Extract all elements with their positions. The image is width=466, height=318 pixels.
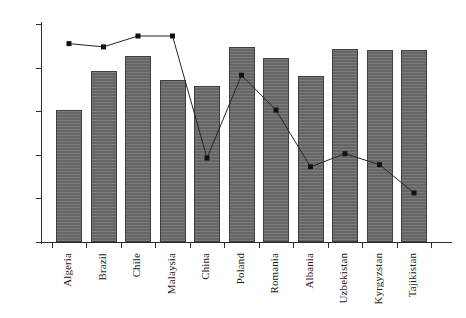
x-axis-category-label: Poland xyxy=(235,253,249,284)
y-axis-tick-label-wrap: 1 xyxy=(0,24,42,25)
line-marker: Algeria: 0.91 xyxy=(67,41,72,46)
line-marker: Chile: 0.945 xyxy=(136,33,141,38)
x-axis-category-label: China xyxy=(200,253,214,280)
x-axis-tick xyxy=(397,242,398,248)
x-axis-tick xyxy=(121,242,122,248)
x-axis-category-label: Chile xyxy=(131,253,145,277)
line-marker: Kyrgyzstan: 0.355 xyxy=(377,162,382,167)
line-marker: Malaysia: 0.945 xyxy=(170,33,175,38)
x-axis-tick xyxy=(328,242,329,248)
x-axis-tick xyxy=(155,242,156,248)
x-axis-tick xyxy=(362,242,363,248)
line-marker: Tajikistan: 0.225 xyxy=(412,190,417,195)
x-axis-category-label: Algeria xyxy=(62,253,76,287)
y-axis-tick-label-wrap: 0.4 xyxy=(0,155,42,156)
line-series: Algeria: 0.91Brazil: 0.895Chile: 0.945Ma… xyxy=(42,24,452,242)
x-axis-tick xyxy=(293,242,294,248)
line-marker: Albania: 0.345 xyxy=(308,164,313,169)
x-axis-tick xyxy=(259,242,260,248)
x-axis-category-label: Malaysia xyxy=(166,253,180,294)
x-axis-tick xyxy=(52,242,53,248)
x-axis-category-label: Brazil xyxy=(97,253,111,280)
x-axis-category-label: Albania xyxy=(304,253,318,289)
y-axis-tick-label-wrap: 0 xyxy=(0,242,42,243)
x-axis-category-label: Uzbekistan xyxy=(338,253,352,303)
x-axis-tick xyxy=(224,242,225,248)
line-marker: Poland: 0.765 xyxy=(239,73,244,78)
x-axis-category-label: Kyrgyzstan xyxy=(373,253,387,305)
chart-container: 00.20.40.60.81 Algeria: 0.91Brazil: 0.89… xyxy=(0,0,466,318)
x-axis-tick xyxy=(431,242,432,248)
line-marker: Romania: 0.605 xyxy=(274,108,279,113)
x-axis-line xyxy=(41,242,452,243)
y-axis-tick-label-wrap: 0.8 xyxy=(0,68,42,69)
line-marker: Brazil: 0.895 xyxy=(101,44,106,49)
x-axis-category-label: Tajikistan xyxy=(407,253,421,297)
y-axis-tick-label-wrap: 0.2 xyxy=(0,198,42,199)
x-axis-tick xyxy=(86,242,87,248)
x-axis-category-label: Romania xyxy=(269,253,283,293)
line-marker: Uzbekistan: 0.405 xyxy=(343,151,348,156)
line-marker: China: 0.385 xyxy=(205,156,210,161)
y-axis-tick-label-wrap: 0.6 xyxy=(0,111,42,112)
x-axis-tick xyxy=(190,242,191,248)
line-path xyxy=(69,36,414,193)
